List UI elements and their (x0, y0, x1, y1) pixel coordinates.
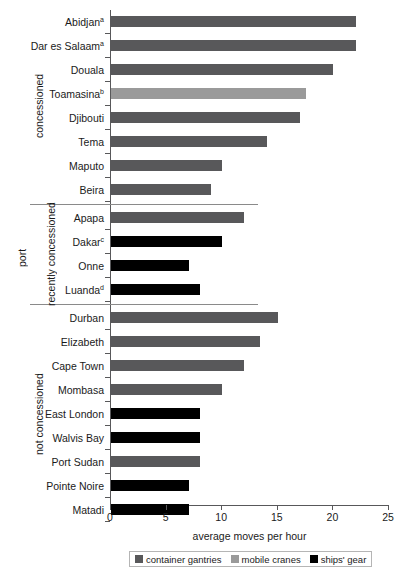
bar-row: Cape Town (0, 354, 400, 378)
label-superscript: b (100, 88, 104, 95)
bar (111, 408, 200, 419)
bar (111, 456, 200, 467)
legend-swatch (310, 555, 318, 563)
bar-row: Dar es Salaama (0, 34, 400, 58)
legend-label: container gantries (146, 554, 222, 565)
group-label: not concessioned (30, 306, 48, 522)
legend-item: mobile cranes (231, 554, 301, 565)
bar (111, 480, 189, 491)
x-axis-tick (277, 505, 278, 510)
bar (111, 312, 278, 323)
x-axis-tick (221, 505, 222, 510)
bar (111, 160, 222, 171)
group-separator (30, 304, 258, 305)
bar (111, 212, 244, 223)
bar (111, 360, 244, 371)
x-axis-tick-label: 15 (262, 511, 292, 523)
bar (111, 40, 356, 51)
bar-row: Djibouti (0, 106, 400, 130)
bar (111, 88, 306, 99)
legend: container gantriesmobile cranesships' ge… (129, 551, 372, 567)
x-axis-tick-label: 20 (317, 511, 347, 523)
x-axis-tick (332, 505, 333, 510)
x-axis-tick-label: 25 (373, 511, 400, 523)
group-label: recently concessioned (38, 206, 64, 302)
bar (111, 336, 260, 347)
bar-row: Port Sudan (0, 450, 400, 474)
bar-row: Beira (0, 178, 400, 202)
label-superscript: d (100, 284, 104, 291)
bar (111, 16, 356, 27)
bar-row: Durban (0, 306, 400, 330)
legend-item: ships' gear (310, 554, 367, 565)
bar-row: Tema (0, 130, 400, 154)
y-axis-tick (105, 301, 110, 302)
bar (111, 64, 333, 75)
bar-row: Douala (0, 58, 400, 82)
bar (111, 384, 222, 395)
legend-swatch (135, 555, 143, 563)
bar (111, 432, 200, 443)
label-superscript: a (100, 16, 104, 23)
x-axis-tick-label: 5 (151, 511, 181, 523)
legend-label: mobile cranes (242, 554, 301, 565)
bar (111, 136, 267, 147)
bar (111, 260, 189, 271)
legend-item: container gantries (135, 554, 222, 565)
y-axis-title: port (16, 10, 28, 505)
bar-row: Mombasa (0, 378, 400, 402)
x-axis-title: average moves per hour (110, 530, 389, 542)
x-axis-tick (110, 505, 111, 510)
bar-row: Maputo (0, 154, 400, 178)
bar (111, 112, 300, 123)
label-superscript: c (101, 236, 105, 243)
legend-swatch (231, 555, 239, 563)
x-axis-tick (388, 505, 389, 510)
bar-row: Toamasinab (0, 82, 400, 106)
bar (111, 236, 222, 247)
label-superscript: a (100, 40, 104, 47)
bar (111, 284, 200, 295)
bar-row: Walvis Bay (0, 426, 400, 450)
x-axis-tick (166, 505, 167, 510)
bar (111, 184, 211, 195)
x-axis-tick-label: 0 (95, 511, 125, 523)
x-axis-tick-label: 10 (206, 511, 236, 523)
group-label: concessioned (30, 10, 48, 202)
bar-row: Abidjana (0, 10, 400, 34)
bar-row: Pointe Noire (0, 474, 400, 498)
bar-chart: AbidjanaDar es SalaamaDoualaToamasinabDj… (0, 0, 400, 568)
group-separator (30, 204, 258, 205)
bar-row: East London (0, 402, 400, 426)
bar-row: Elizabeth (0, 330, 400, 354)
y-axis-tick (105, 201, 110, 202)
legend-label: ships' gear (321, 554, 367, 565)
